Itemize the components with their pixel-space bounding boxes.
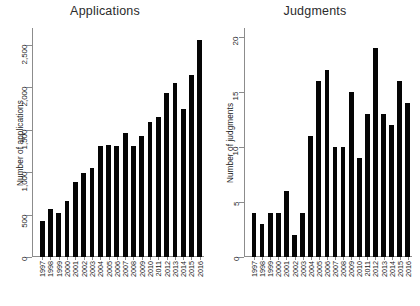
- bar-column: [196, 28, 204, 257]
- bar: [181, 109, 186, 257]
- bar: [114, 146, 119, 257]
- x-tick-mark: [100, 257, 101, 260]
- bar: [268, 213, 273, 257]
- bar-column: [323, 28, 331, 257]
- bar-column: [121, 28, 129, 257]
- bar-column: [46, 28, 54, 257]
- x-tick: 2013: [380, 257, 388, 305]
- x-tick-mark: [158, 257, 159, 260]
- x-tick-label: 2004: [96, 261, 105, 277]
- bar: [333, 147, 338, 257]
- bar-column: [363, 28, 371, 257]
- bar: [381, 114, 386, 257]
- bar-column: [146, 28, 154, 257]
- bar: [284, 191, 289, 257]
- x-tick-mark: [42, 257, 43, 260]
- bar-column: [129, 28, 137, 257]
- x-tick-mark: [117, 257, 118, 260]
- x-tick: 2008: [129, 257, 137, 305]
- bar: [131, 146, 136, 257]
- x-tick-mark: [392, 257, 393, 260]
- bar: [405, 103, 410, 257]
- x-tick-mark: [150, 257, 151, 260]
- bar-column: [258, 28, 266, 257]
- panel-title-applications: Applications: [0, 4, 210, 18]
- bar-column: [339, 28, 347, 257]
- y-tick-label: 1,500: [20, 129, 29, 149]
- bar-column: [104, 28, 112, 257]
- bar: [98, 146, 103, 257]
- bar-column: [290, 28, 298, 257]
- x-tick-mark: [270, 257, 271, 260]
- bar-column: [307, 28, 315, 257]
- x-tick: 1998: [46, 257, 54, 305]
- bar: [56, 213, 61, 257]
- bar-column: [380, 28, 388, 257]
- bar: [40, 221, 45, 257]
- figure-two-panel-bar-charts: Applications Number of applications 1997…: [0, 0, 420, 306]
- bar: [65, 201, 70, 257]
- bar: [81, 173, 86, 257]
- panel-applications: Applications Number of applications 1997…: [0, 0, 210, 306]
- x-tick-mark: [400, 257, 401, 260]
- x-tick-mark: [359, 257, 360, 260]
- bar: [252, 213, 257, 257]
- x-tick-mark: [59, 257, 60, 260]
- y-tick-label: 1,000: [20, 172, 29, 192]
- bar: [189, 75, 194, 257]
- x-tick: 2011: [154, 257, 162, 305]
- bar-column: [113, 28, 121, 257]
- bar: [308, 136, 313, 257]
- x-tick-mark: [262, 257, 263, 260]
- bar: [156, 117, 161, 257]
- y-tick-label: 5: [232, 201, 241, 205]
- bar: [373, 48, 378, 257]
- x-tick-mark: [327, 257, 328, 260]
- x-tick-mark: [84, 257, 85, 260]
- x-tick-mark: [183, 257, 184, 260]
- bar: [106, 145, 111, 257]
- bar: [139, 136, 144, 257]
- panel-judgments: Judgments Number of judgments 1997199819…: [210, 0, 420, 306]
- x-tick-mark: [278, 257, 279, 260]
- x-tick: 2004: [96, 257, 104, 305]
- bar-column: [404, 28, 412, 257]
- x-tick-mark: [295, 257, 296, 260]
- x-tick: 2001: [71, 257, 79, 305]
- bar: [90, 168, 95, 257]
- bar: [325, 70, 330, 257]
- x-tick-mark: [75, 257, 76, 260]
- x-tick: 2014: [388, 257, 396, 305]
- bar-column: [331, 28, 339, 257]
- x-tick-mark: [92, 257, 93, 260]
- x-tick-mark: [335, 257, 336, 260]
- y-tick-label: 0: [232, 257, 241, 261]
- x-tick: 2012: [162, 257, 170, 305]
- x-tick: 2016: [196, 257, 204, 305]
- bar-column: [96, 28, 104, 257]
- x-tick-mark: [142, 257, 143, 260]
- x-tick-mark: [191, 257, 192, 260]
- bar: [316, 81, 321, 257]
- x-tick-mark: [286, 257, 287, 260]
- bar: [260, 224, 265, 257]
- y-tick-label: 500: [20, 214, 29, 227]
- plot-area-applications: 1997199819992000200120022003200420052006…: [38, 28, 204, 257]
- panel-title-judgments: Judgments: [210, 4, 420, 18]
- bar: [365, 114, 370, 257]
- bar: [148, 122, 153, 257]
- x-tick: 2001: [282, 257, 290, 305]
- x-tick: 2002: [290, 257, 298, 305]
- bar-column: [154, 28, 162, 257]
- x-tick-mark: [254, 257, 255, 260]
- x-tick-mark: [67, 257, 68, 260]
- y-tick-label: 15: [232, 91, 241, 100]
- bar: [48, 209, 53, 257]
- y-tick-label: 2,500: [20, 44, 29, 64]
- bar: [164, 93, 169, 257]
- x-tick: 2003: [299, 257, 307, 305]
- bar-column: [371, 28, 379, 257]
- bar: [341, 147, 346, 257]
- bar-column: [274, 28, 282, 257]
- x-tick: 2015: [187, 257, 195, 305]
